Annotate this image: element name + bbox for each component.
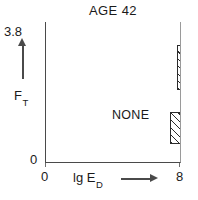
x-axis-min-tick-label: 0 (41, 169, 48, 184)
x-axis-max-tick-label: 8 (176, 169, 183, 184)
spray-region-block-lower (170, 112, 181, 144)
chart-title: AGE 42 (45, 3, 181, 19)
region-label-none: NONE (112, 108, 149, 122)
x-axis-max-tick (179, 163, 180, 167)
y-axis-max-tick-label: 3.8 (4, 24, 22, 39)
x-axis-label-main: lg E (73, 170, 95, 185)
y-axis-direction-arrow-icon (22, 45, 24, 79)
x-axis-origin-tick (45, 163, 46, 167)
y-axis-label: FT (14, 88, 28, 106)
spray-region-block-upper (177, 45, 181, 90)
plot-area: NONE S P R A Y (45, 22, 181, 163)
x-axis-label-subscript: D (96, 179, 103, 190)
chart-figure: AGE 42 NONE S P R A Y 3.8 FT 0 0 lg ED 8 (0, 0, 198, 200)
x-axis-direction-arrow-icon (121, 178, 151, 180)
y-axis-label-subscript: T (22, 97, 28, 108)
y-axis-label-main: F (14, 88, 22, 103)
x-axis-label: lg ED (73, 170, 102, 188)
y-axis-min-tick-label: 0 (30, 152, 37, 167)
